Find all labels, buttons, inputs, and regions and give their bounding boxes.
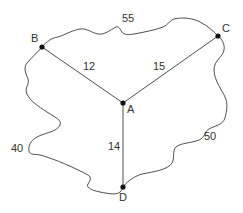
weight-label-b-d: 40	[11, 142, 23, 154]
node-d	[120, 184, 125, 189]
node-label-a: A	[127, 103, 135, 115]
node-label-b: B	[31, 32, 38, 44]
edge-c-d	[123, 36, 227, 187]
node-label-c: C	[222, 22, 230, 34]
node-label-d: D	[119, 191, 127, 203]
node-b	[39, 44, 44, 49]
weighted-graph-diagram: A B C D 12 15 14 55 40 50	[0, 0, 243, 213]
weight-label-a-d: 14	[108, 140, 120, 152]
weight-label-a-b: 12	[83, 60, 95, 72]
edge-a-b	[42, 47, 123, 103]
weight-label-c-d: 50	[204, 130, 216, 142]
edge-a-c	[123, 36, 218, 103]
weight-label-b-c: 55	[122, 12, 134, 24]
node-a	[120, 100, 125, 105]
weight-label-a-c: 15	[153, 60, 165, 72]
node-c	[215, 33, 220, 38]
